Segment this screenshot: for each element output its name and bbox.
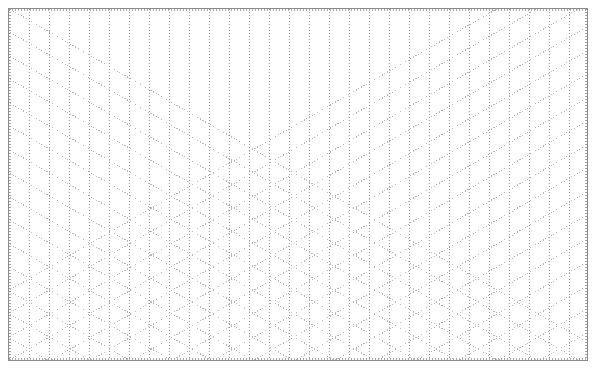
bottom-tick-band bbox=[9, 358, 587, 360]
diagonal-up-lines bbox=[9, 9, 587, 360]
graph-paper-canvas: Isometric Triangle Dot Grid Paper bbox=[0, 0, 596, 369]
diagonal-down-lines bbox=[9, 9, 587, 360]
vertical-lines bbox=[10, 9, 587, 360]
isometric-dot-grid bbox=[9, 9, 587, 360]
paper-border bbox=[8, 8, 588, 361]
right-tick-band bbox=[585, 9, 587, 360]
page-title: Isometric Triangle Dot Grid Paper bbox=[0, 21, 1, 22]
top-tick-band bbox=[9, 9, 587, 11]
left-tick-band bbox=[9, 9, 11, 360]
